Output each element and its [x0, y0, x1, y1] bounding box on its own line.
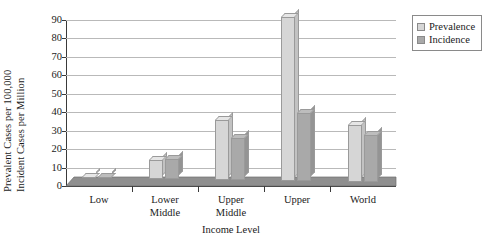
x-tick-mark-3 [264, 186, 265, 192]
y-tick-label-40: 40 [40, 106, 62, 117]
y-tick-label-50: 50 [40, 88, 62, 99]
bar-group-upper-middle [198, 20, 264, 186]
legend-label-incidence: Incidence [429, 33, 470, 46]
chart-legend: PrevalenceIncidence [412, 15, 482, 51]
bar-group-low [66, 20, 132, 186]
y-tick-label-10: 10 [40, 162, 62, 173]
y-axis-tick-labels: 0102030405060708090 [40, 10, 62, 196]
bar-front-face [149, 160, 163, 179]
legend-swatch-prevalence [417, 23, 425, 31]
bar-front-face [165, 159, 179, 179]
bar-prevalence-world [348, 125, 362, 181]
bar-incidence-upper [297, 113, 311, 180]
x-category-label-world: World [330, 194, 396, 207]
x-tick-mark-2 [198, 186, 199, 192]
bar-prevalence-lower-middle [149, 160, 163, 179]
bar-incidence-upper-middle [231, 138, 245, 180]
x-category-label-low: Low [66, 194, 132, 207]
bar-incidence-world [364, 135, 378, 182]
bar-prevalence-upper-middle [215, 120, 229, 180]
bar-front-face [348, 125, 362, 181]
bar-front-face [231, 138, 245, 180]
y-tick-label-0: 0 [40, 180, 62, 191]
bar-side-face [311, 105, 315, 176]
legend-label-prevalence: Prevalence [429, 20, 475, 33]
x-tick-mark-1 [132, 186, 133, 192]
bar-incidence-low [98, 177, 112, 178]
bar-group-world [330, 20, 396, 186]
bar-front-face [297, 113, 311, 180]
plot-area [66, 20, 396, 186]
bar-group-upper [264, 20, 330, 186]
y-tick-label-30: 30 [40, 125, 62, 136]
x-category-label-lower-middle: Lower Middle [132, 194, 198, 219]
bar-group-lower-middle [132, 20, 198, 186]
y-axis-title-line-2: Incident Cases per Million [15, 78, 26, 192]
bar-top-face [165, 155, 183, 159]
x-category-label-upper-middle: Upper Middle [198, 194, 264, 219]
x-category-label-upper: Upper [264, 194, 330, 207]
bar-front-face [281, 17, 295, 181]
y-tick-label-60: 60 [40, 69, 62, 80]
bar-incidence-lower-middle [165, 159, 179, 179]
x-axis-category-labels: LowLower MiddleUpper MiddleUpperWorld [66, 194, 411, 228]
bars-layer [66, 20, 396, 186]
y-tick-label-80: 80 [40, 32, 62, 43]
bar-front-face [215, 120, 229, 180]
x-axis-title: Income Level [66, 224, 396, 235]
legend-item-prevalence: Prevalence [417, 20, 475, 33]
y-tick-label-20: 20 [40, 143, 62, 154]
y-tick-label-90: 90 [40, 14, 62, 25]
bar-chart: Prevalent Cases per 100,000 Incident Cas… [0, 0, 503, 242]
y-axis-title: Prevalent Cases per 100,000 Incident Cas… [0, 0, 40, 200]
bar-prevalence-upper [281, 17, 295, 181]
bar-top-face [98, 173, 116, 177]
legend-swatch-incidence [417, 36, 425, 44]
x-tick-mark-4 [330, 186, 331, 192]
y-axis-title-line-1: Prevalent Cases per 100,000 [2, 70, 13, 192]
y-tick-label-70: 70 [40, 51, 62, 62]
legend-item-incidence: Incidence [417, 33, 475, 46]
bar-front-face [364, 135, 378, 182]
bar-prevalence-low [82, 177, 96, 178]
x-axis-tick-marks [66, 186, 396, 192]
